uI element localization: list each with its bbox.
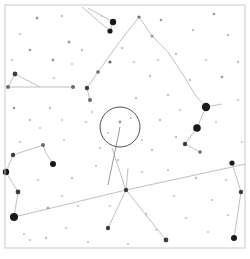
star-marker [71,85,75,89]
star-marker [53,77,55,79]
star-marker [77,205,79,207]
star-marker [167,94,169,96]
star-marker [159,119,161,121]
star-marker [175,53,177,55]
star-marker [88,98,92,102]
star-marker [52,59,55,62]
star-marker [202,103,210,111]
star-marker [141,139,143,141]
star-marker [237,99,239,101]
star-marker [29,49,32,52]
star-marker [221,76,224,79]
star-marker [110,19,116,25]
star-marker [85,86,89,90]
star-chart-panel [0,0,250,259]
star-marker [61,119,63,121]
star-marker [189,79,191,81]
star-marker [49,107,51,109]
star-marker [6,85,10,89]
star-marker [47,207,50,210]
star-marker [192,29,194,31]
star-marker [231,235,237,241]
star-marker [211,199,213,201]
star-marker [124,188,128,192]
star-marker [95,165,97,167]
star-marker [37,179,39,181]
star-marker [185,217,187,219]
star-marker [205,59,207,61]
star-marker [145,213,147,215]
star-marker [96,70,100,74]
star-marker [117,159,119,161]
star-marker [41,143,45,147]
star-marker [91,111,93,113]
star-marker [164,238,169,243]
star-marker [155,229,157,231]
star-marker [13,107,16,110]
star-marker [45,237,47,239]
star-marker [29,119,31,121]
star-marker [135,97,137,99]
star-marker [179,109,181,111]
star-marker [11,59,13,61]
star-marker [173,195,175,197]
star-marker [11,153,15,157]
star-marker [160,19,163,22]
star-marker [133,61,135,63]
star-marker [225,179,227,181]
star-marker [29,239,31,241]
star-marker [215,121,217,123]
star-marker [36,17,39,20]
star-marker [50,161,56,167]
star-marker [81,49,83,51]
star-marker [71,177,73,179]
star-marker [130,117,132,119]
star-marker [10,213,18,221]
star-marker [109,205,111,207]
star-marker [167,169,169,171]
star-marker [151,149,153,151]
star-marker [198,150,202,154]
star-marker [241,141,243,143]
star-marker [16,190,21,195]
star-marker [195,177,197,179]
star-marker [71,63,73,65]
sky-background [0,0,250,259]
star-marker [239,190,243,194]
star-marker [61,195,63,197]
star-marker [13,72,18,77]
star-marker [175,136,177,138]
star-marker [227,214,229,216]
star-marker [65,227,67,229]
star-marker [107,28,112,33]
star-marker [137,15,140,18]
star-marker [193,124,201,132]
star-marker [85,121,87,123]
star-marker [107,132,109,134]
star-marker [151,35,154,38]
star-marker [127,243,129,245]
star-marker [3,169,9,175]
star-marker [68,41,71,44]
star-marker [141,171,143,173]
star-marker [149,75,151,77]
star-marker [19,33,21,35]
star-marker [213,13,216,16]
star-marker [237,61,239,63]
star-marker [87,241,89,243]
star-marker [19,141,21,143]
star-marker [106,226,110,230]
star-marker [157,59,159,61]
star-marker [183,142,187,146]
star-marker [108,60,111,63]
star-marker [63,139,65,141]
star-marker [119,121,122,124]
star-marker [227,34,229,36]
star-marker [101,15,103,17]
star-marker [23,233,25,235]
star-marker [61,15,63,17]
star-marker [207,231,209,233]
star-marker [229,160,234,165]
star-marker [39,127,41,129]
star-chart-canvas[interactable] [0,0,250,259]
